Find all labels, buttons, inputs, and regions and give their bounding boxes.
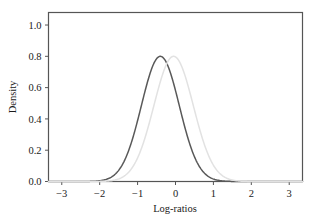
y-tick-label: 0.0 <box>28 176 41 187</box>
y-tick-label: 0.6 <box>28 82 41 93</box>
x-tick-label: 0 <box>173 188 178 199</box>
light-density-curve <box>49 56 303 181</box>
dark-density-curve <box>49 56 303 181</box>
y-axis-tick-labels: 0.00.20.40.60.81.0 <box>28 20 42 187</box>
chart-canvas: 0.00.20.40.60.81.0 −3−2−10123 Log-ratios… <box>0 0 316 220</box>
x-tick-label: 2 <box>249 188 254 199</box>
density-plot-figure: 0.00.20.40.60.81.0 −3−2−10123 Log-ratios… <box>0 0 316 220</box>
x-axis-tick-labels: −3−2−10123 <box>56 188 292 199</box>
y-axis-title: Density <box>7 80 18 113</box>
y-tick-label: 0.4 <box>28 114 42 125</box>
x-axis-title: Log-ratios <box>153 203 197 214</box>
y-tick-label: 0.8 <box>28 51 41 62</box>
x-tick-label: 3 <box>287 188 292 199</box>
density-curves-group <box>49 56 303 181</box>
x-tick-label: −1 <box>132 188 143 199</box>
y-tick-label: 1.0 <box>28 20 41 31</box>
x-tick-label: 1 <box>211 188 216 199</box>
x-tick-label: −3 <box>56 188 67 199</box>
plot-frame <box>49 13 303 182</box>
y-tick-label: 0.2 <box>28 145 41 156</box>
x-tick-label: −2 <box>94 188 105 199</box>
